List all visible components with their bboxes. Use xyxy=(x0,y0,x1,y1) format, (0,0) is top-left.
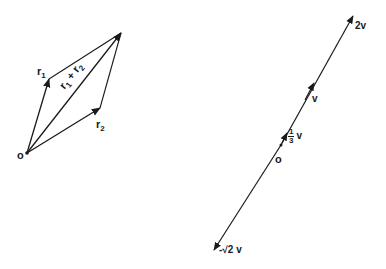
origin-point-left xyxy=(25,151,29,155)
label-v: v xyxy=(312,94,318,104)
label-origin-left: o xyxy=(17,150,24,161)
label-r2: r2 xyxy=(96,119,105,130)
fraction-denominator: 3 xyxy=(288,137,294,145)
fraction-one-third: 1 3 xyxy=(288,128,294,145)
label-one-third-v: 1 3 v xyxy=(288,128,302,145)
vector-diagram-svg xyxy=(0,0,386,269)
vector-r1-plus-r2-arrow xyxy=(27,33,121,153)
label-neg-sqrt2-v: -√2 v xyxy=(219,245,242,255)
label-r2-sub: 2 xyxy=(100,124,104,133)
vector-one-third-v-arrow xyxy=(282,133,287,143)
vector-line xyxy=(281,16,353,145)
negative-vector-line xyxy=(214,145,281,250)
label-one-third-var: v xyxy=(296,130,302,141)
label-2v: 2v xyxy=(355,21,366,31)
scalar-multiples-figure xyxy=(214,16,353,250)
diagram-canvas: o r1 r2 r1 + r2 2v v 1 3 v o -√2 v xyxy=(0,0,386,269)
label-origin-right: o xyxy=(275,154,282,165)
parallelogram-figure xyxy=(25,33,121,155)
origin-point-right xyxy=(280,144,283,147)
label-r1: r1 xyxy=(37,66,46,77)
label-r1-sub: 1 xyxy=(41,71,45,80)
